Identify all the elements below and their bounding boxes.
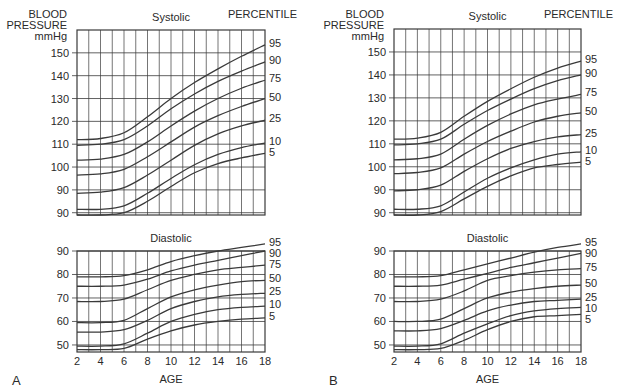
percentile-label: 75	[585, 261, 597, 273]
plot-title: Diastolic	[467, 232, 509, 244]
percentile-label: 50	[585, 277, 597, 289]
percentile-label: 75	[269, 258, 281, 270]
y-axis-title-line: mmHg	[352, 30, 384, 42]
percentile-label: 25	[269, 285, 281, 297]
x-tick-label: 14	[212, 355, 224, 367]
y-tick-label: 70	[374, 292, 386, 304]
panel-label: A	[12, 373, 21, 388]
percentile-header: PERCENTILE	[544, 8, 613, 20]
y-tick-label: 90	[57, 245, 69, 257]
percentile-label: 5	[585, 313, 591, 325]
y-tick-label: 130	[51, 93, 69, 105]
y-tick-label: 90	[374, 207, 386, 219]
percentile-label: 5	[269, 146, 275, 158]
y-tick-label: 60	[374, 315, 386, 327]
x-tick-label: 6	[121, 355, 127, 367]
y-tick-label: 140	[368, 69, 386, 81]
y-tick-label: 110	[51, 138, 69, 150]
y-tick-label: 90	[57, 184, 69, 196]
blood-pressure-percentile-figure: 1501401301201101009090Systolic9590755025…	[0, 0, 617, 391]
diastolic-plot-a: 9080706050Diastolic959075502510524681012…	[57, 232, 282, 367]
y-tick-label: 110	[368, 138, 386, 150]
diastolic-plot-b: 9080706050Diastolic959075502510524681012…	[374, 232, 598, 367]
x-tick-label: 2	[391, 355, 397, 367]
y-tick-label: 80	[57, 268, 69, 280]
y-tick-label: 50	[374, 339, 386, 351]
plot-title: Systolic	[469, 10, 507, 22]
panel-label: B	[329, 373, 338, 388]
x-tick-label: 10	[165, 355, 177, 367]
percentile-label: 95	[269, 37, 281, 49]
percentile-label: 50	[585, 105, 597, 117]
y-tick-label: 140	[51, 70, 69, 82]
y-tick-label: 120	[51, 115, 69, 127]
systolic-plot-b: 1501401301201101009090Systolic9590755025…	[368, 10, 598, 219]
y-axis-title-line: mmHg	[35, 30, 67, 42]
y-tick-label: 100	[51, 161, 69, 173]
x-tick-label: 16	[552, 355, 564, 367]
x-tick-label: 2	[74, 355, 80, 367]
x-tick-label: 14	[528, 355, 540, 367]
x-tick-label: 6	[438, 355, 444, 367]
y-tick-label: 100	[368, 161, 386, 173]
percentile-label: 50	[269, 91, 281, 103]
percentile-label: 90	[269, 54, 281, 66]
percentile-label: 5	[585, 155, 591, 167]
x-tick-label: 12	[188, 355, 200, 367]
percentile-label: 75	[585, 86, 597, 98]
x-tick-label: 8	[144, 355, 150, 367]
y-tick-label: 90	[57, 207, 69, 219]
systolic-plot-a: 1501401301201101009090Systolic9590755025…	[51, 11, 282, 219]
percentile-label: 10	[269, 298, 281, 310]
percentile-label: 90	[585, 247, 597, 259]
y-tick-label: 150	[368, 46, 386, 58]
x-axis-title: AGE	[476, 373, 499, 385]
y-tick-label: 120	[368, 115, 386, 127]
x-tick-label: 16	[235, 355, 247, 367]
chart-canvas: 1501401301201101009090Systolic9590755025…	[0, 0, 617, 391]
percentile-label: 95	[585, 53, 597, 65]
y-tick-label: 70	[57, 292, 69, 304]
percentile-label: 25	[269, 112, 281, 124]
percentile-label: 25	[585, 127, 597, 139]
percentile-label: 50	[269, 272, 281, 284]
x-tick-label: 10	[481, 355, 493, 367]
x-tick-label: 4	[97, 355, 103, 367]
x-tick-label: 18	[259, 355, 271, 367]
y-tick-label: 80	[374, 268, 386, 280]
plot-title: Systolic	[152, 11, 190, 23]
percentile-header: PERCENTILE	[228, 8, 297, 20]
percentile-label: 90	[585, 67, 597, 79]
x-tick-label: 18	[575, 355, 587, 367]
y-tick-label: 50	[57, 339, 69, 351]
y-tick-label: 60	[57, 315, 69, 327]
plot-title: Diastolic	[150, 232, 192, 244]
x-axis-title: AGE	[159, 373, 182, 385]
x-tick-label: 8	[461, 355, 467, 367]
percentile-label: 75	[269, 72, 281, 84]
x-tick-label: 4	[414, 355, 420, 367]
y-tick-label: 130	[368, 92, 386, 104]
y-tick-label: 90	[374, 184, 386, 196]
y-tick-label: 90	[374, 245, 386, 257]
percentile-label: 5	[269, 310, 275, 322]
x-tick-label: 12	[505, 355, 517, 367]
y-tick-label: 150	[51, 47, 69, 59]
